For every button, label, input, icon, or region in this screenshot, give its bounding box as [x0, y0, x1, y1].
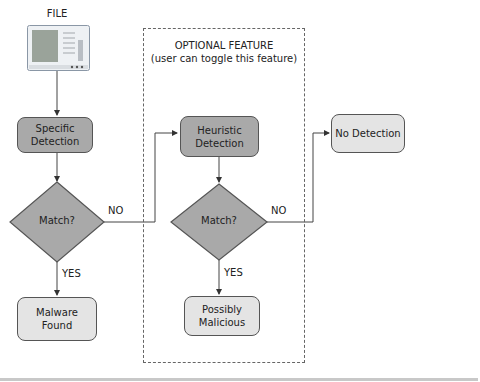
file-icon: [27, 25, 90, 71]
optional-feature-subtitle: (user can toggle this feature): [143, 53, 305, 64]
no-label-1: NO: [108, 205, 123, 216]
possibly-malicious-node: Possibly Malicious: [184, 296, 260, 336]
no-detection-node: No Detection: [331, 114, 405, 153]
file-label: FILE: [40, 8, 74, 19]
match-1-label: Match?: [27, 215, 87, 226]
no-label-2: NO: [271, 205, 286, 216]
malware-found-node: Malware Found: [17, 297, 97, 341]
bottom-divider: [0, 378, 478, 381]
match-2-label: Match?: [189, 215, 249, 226]
heuristic-detection-node: Heuristic Detection: [180, 116, 259, 157]
optional-feature-title: OPTIONAL FEATURE: [143, 40, 305, 51]
yes-label-1: YES: [62, 268, 81, 279]
yes-label-2: YES: [224, 267, 243, 278]
specific-detection-node: Specific Detection: [17, 117, 93, 153]
